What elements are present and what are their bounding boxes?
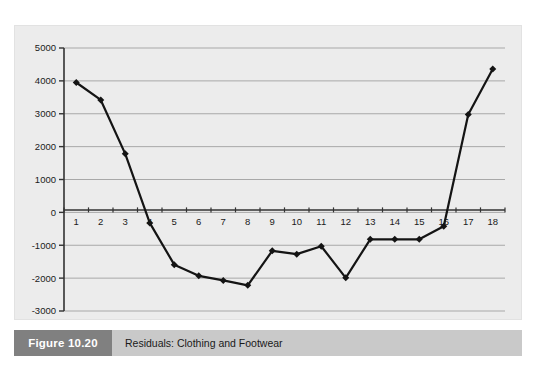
figure-caption-text-wrap: Residuals: Clothing and Footwear xyxy=(112,330,522,356)
x-axis-tick-label: 2 xyxy=(98,216,103,227)
y-axis-tick-label: 2000 xyxy=(35,141,56,152)
x-axis-tick-label: 1 xyxy=(74,216,79,227)
y-axis-tick-label: 1000 xyxy=(35,174,56,185)
y-axis-tick-label: 0 xyxy=(51,207,56,218)
x-axis-tick-label: 15 xyxy=(414,216,425,227)
figure-container: 500040003000200010000-1000-2000-3000 123… xyxy=(0,0,537,374)
x-axis-tick-label: 5 xyxy=(172,216,177,227)
data-point-marker xyxy=(122,150,129,157)
x-axis-tick-label: 8 xyxy=(245,216,250,227)
x-axis-tick-labels: 123456789101112131415161718 xyxy=(74,216,498,227)
y-axis-tick-label: 4000 xyxy=(35,75,56,86)
data-point-marker xyxy=(391,236,398,243)
x-axis-tick-label: 9 xyxy=(270,216,275,227)
x-axis-tick-label: 17 xyxy=(463,216,474,227)
series-line-residuals xyxy=(76,69,493,285)
figure-caption-label: Residuals: Clothing and Footwear xyxy=(125,337,283,349)
x-axis-tick-label: 3 xyxy=(123,216,128,227)
x-axis-tick-label: 10 xyxy=(291,216,302,227)
y-axis-tick-label: -3000 xyxy=(32,305,56,316)
x-axis-tick-label: 6 xyxy=(196,216,201,227)
y-axis-tick-label: 5000 xyxy=(35,42,56,53)
x-axis-tick-label: 14 xyxy=(389,216,400,227)
x-axis-tick-label: 13 xyxy=(365,216,376,227)
figure-number-label: Figure 10.20 xyxy=(28,337,98,349)
figure-caption-bar: Figure 10.20 Residuals: Clothing and Foo… xyxy=(14,330,522,356)
y-axis-tick-labels: 500040003000200010000-1000-2000-3000 xyxy=(32,42,56,316)
y-axis-tick-label: -2000 xyxy=(32,273,56,284)
x-axis-tick-label: 11 xyxy=(316,216,326,227)
data-point-marker xyxy=(293,251,300,258)
y-axis-tick-label: 3000 xyxy=(35,108,56,119)
figure-number-box: Figure 10.20 xyxy=(14,330,112,356)
x-axis-tick-label: 18 xyxy=(487,216,498,227)
gridlines xyxy=(64,48,505,311)
x-axis-tick-label: 12 xyxy=(340,216,351,227)
x-axis-tick-label: 7 xyxy=(221,216,226,227)
residuals-line-chart: 500040003000200010000-1000-2000-3000 123… xyxy=(0,0,537,330)
series-markers xyxy=(73,66,497,289)
y-axis-tick-label: -1000 xyxy=(32,240,56,251)
